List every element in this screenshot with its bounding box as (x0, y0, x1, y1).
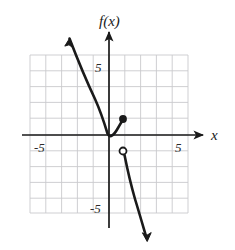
x-axis-label: x (210, 127, 218, 143)
y-tick-label-positive-5: 5 (95, 60, 102, 75)
open-endpoint-circle (120, 148, 127, 155)
closed-endpoint-dot (119, 115, 127, 123)
x-tick-label-negative-5: -5 (34, 140, 45, 155)
figure-background (0, 0, 235, 250)
y-tick-label-negative-5: -5 (90, 201, 101, 216)
function-graph-figure: -5 5 5 -5 f(x) x (0, 0, 235, 250)
y-axis-label: f(x) (99, 13, 120, 30)
x-tick-label-positive-5: 5 (175, 140, 182, 155)
